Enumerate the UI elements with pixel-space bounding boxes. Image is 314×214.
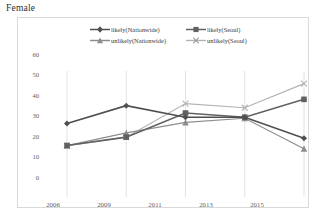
legend-marker-diamond-icon <box>90 25 110 34</box>
y-axis-tick-60: 60 <box>17 51 39 58</box>
datapoint-2009 <box>123 134 129 140</box>
y-axis-tick-50: 50 <box>17 71 39 78</box>
x-axis-tick-2015: 2015 <box>234 201 280 209</box>
legend-label-unlikely-seoul: unlikely(Seoul) <box>207 36 247 45</box>
x-axis-tick-2009: 2009 <box>81 201 127 209</box>
datapoint-2006 <box>64 121 70 127</box>
chart-legend: likely(Nationwide) likely(Seoul) <box>90 24 270 46</box>
legend-label-likely-nationwide: likely(Nationwide) <box>111 25 160 34</box>
y-axis-tick-40: 40 <box>17 92 39 99</box>
chart-frame: likely(Nationwide) likely(Seoul) <box>17 17 309 208</box>
x-axis-tick-2006: 2006 <box>30 201 76 209</box>
datapoint-2015 <box>301 135 307 141</box>
x-axis-tick-2011: 2011 <box>132 201 178 209</box>
screenshot-root: Female likely(Nationwide) <box>0 0 314 214</box>
page-title: Female <box>6 3 35 13</box>
legend-item-likely-nationwide[interactable]: likely(Nationwide) <box>90 24 186 35</box>
datapoint-2006 <box>64 143 70 149</box>
legend-label-likely-seoul: likely(Seoul) <box>207 25 240 34</box>
legend-item-likely-seoul[interactable]: likely(Seoul) <box>186 24 270 35</box>
legend-marker-cross-icon <box>186 36 206 45</box>
chart-canvas <box>58 71 313 197</box>
legend-item-unlikely-seoul[interactable]: unlikely(Seoul) <box>186 35 270 46</box>
plot-area <box>58 71 313 197</box>
legend-label-unlikely-nationwide: unlikely(Nationwide) <box>111 36 166 45</box>
legend-marker-square-icon <box>186 25 206 34</box>
y-axis-tick-20: 20 <box>17 133 39 140</box>
y-axis-tick-30: 30 <box>17 112 39 119</box>
y-axis-tick-10: 10 <box>17 153 39 160</box>
datapoint-2015 <box>301 146 308 152</box>
legend-marker-triangle-icon <box>90 36 110 45</box>
datapoint-2015 <box>301 97 307 103</box>
x-axis-tick-2013: 2013 <box>183 201 229 209</box>
y-axis-tick-0: 0 <box>17 174 39 181</box>
legend-item-unlikely-nationwide[interactable]: unlikely(Nationwide) <box>90 35 186 46</box>
datapoint-2009 <box>123 103 129 109</box>
